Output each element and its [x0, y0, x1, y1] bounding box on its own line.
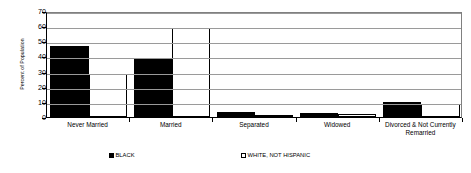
legend-label: WHITE, NOT HISPANIC: [248, 152, 311, 158]
y-axis-ticks: 706050403020100: [0, 0, 46, 173]
bar-white: [255, 115, 293, 117]
x-tick-label-line: Remarried: [379, 129, 462, 137]
gridline: [47, 89, 461, 90]
gridline: [47, 58, 461, 59]
bar-white: [89, 74, 127, 117]
gridline: [47, 43, 461, 44]
y-tick-label: 60: [22, 24, 46, 31]
x-tick-label: Widowed: [296, 121, 379, 129]
plot-area: [46, 12, 462, 118]
chart-legend: BLACKWHITE, NOT HISPANIC: [46, 152, 462, 164]
x-tick-label-line: Divorced & Not Currently: [379, 121, 462, 129]
y-tick-label: 0: [22, 114, 46, 121]
x-tick-label: Divorced & Not CurrentlyRemarried: [379, 121, 462, 136]
bar-black: [217, 112, 255, 117]
x-tick-label-line: Separated: [212, 121, 295, 129]
bar-black: [300, 113, 338, 117]
y-tick-label: 30: [22, 69, 46, 76]
legend-item-white-not-hispanic[interactable]: WHITE, NOT HISPANIC: [241, 152, 310, 158]
x-tick-label: Married: [129, 121, 212, 129]
y-tick-label: 70: [22, 8, 46, 15]
gridline: [47, 74, 461, 75]
x-tick-mark: [462, 118, 463, 122]
legend-swatch-icon: [241, 153, 246, 158]
x-tick-label: Never Married: [46, 121, 129, 129]
legend-item-black[interactable]: BLACK: [109, 152, 135, 158]
legend-label: BLACK: [116, 152, 135, 158]
gridline: [47, 28, 461, 29]
bar-black: [50, 46, 88, 117]
gridline: [47, 13, 461, 14]
bar-white: [338, 114, 376, 117]
bar-white: [421, 104, 459, 117]
legend-swatch-icon: [109, 153, 114, 158]
x-axis-labels: Never MarriedMarriedSeparatedWidowedDivo…: [46, 121, 462, 147]
gridline: [47, 104, 461, 105]
x-tick-label-line: Never Married: [46, 121, 129, 129]
y-tick-label: 20: [22, 84, 46, 91]
x-tick-label-line: Widowed: [296, 121, 379, 129]
y-tick-label: 50: [22, 39, 46, 46]
y-tick-label: 10: [22, 99, 46, 106]
bar-chart: Percent of Population 706050403020100 Ne…: [0, 0, 471, 173]
x-tick-label-line: Married: [129, 121, 212, 129]
y-tick-label: 40: [22, 54, 46, 61]
x-tick-label: Separated: [212, 121, 295, 129]
